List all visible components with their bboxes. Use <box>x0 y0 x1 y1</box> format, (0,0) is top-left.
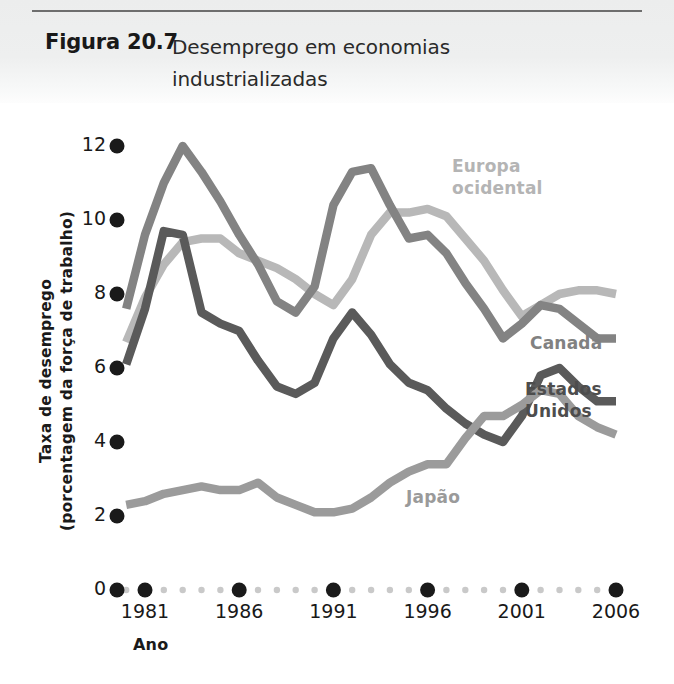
x-tick-dot-minor <box>481 587 487 593</box>
series-label-japao: Japão <box>406 486 460 508</box>
x-tick-dot-minor <box>349 587 355 593</box>
x-tick-dot-minor <box>462 587 468 593</box>
x-tick-dot-minor <box>537 587 543 593</box>
y-tick-label: 12 <box>72 133 106 155</box>
x-tick-dot-minor <box>293 587 299 593</box>
x-tick-dot-minor <box>556 587 562 593</box>
series-label-europa-ocidental: Europa ocidental <box>452 155 543 199</box>
series-label-canada: Canadá <box>530 332 602 354</box>
x-tick-label: 1986 <box>207 600 271 622</box>
x-tick-dot-major <box>232 583 247 598</box>
x-tick-dot-major <box>138 583 153 598</box>
x-tick-dot-minor <box>217 587 223 593</box>
x-tick-dot-minor <box>274 587 280 593</box>
x-tick-dot-minor <box>180 587 186 593</box>
y-tick-dot <box>110 509 125 524</box>
x-tick-dot-major <box>609 583 624 598</box>
x-tick-label: 2001 <box>490 600 554 622</box>
y-tick-dot <box>110 213 125 228</box>
x-tick-dot-minor <box>311 587 317 593</box>
y-axis-major-ticks <box>110 139 125 598</box>
y-tick-dot <box>110 435 125 450</box>
y-tick-label: 0 <box>72 577 106 599</box>
series-line-europa-ocidental <box>126 209 616 342</box>
y-tick-label: 8 <box>72 281 106 303</box>
x-tick-label: 1981 <box>113 600 177 622</box>
x-tick-dot-major <box>514 583 529 598</box>
y-tick-dot <box>110 287 125 302</box>
x-tick-dot-minor <box>255 587 261 593</box>
x-tick-dot-minor <box>500 587 506 593</box>
y-tick-label: 10 <box>72 207 106 229</box>
x-tick-dot-minor <box>443 587 449 593</box>
x-tick-dot-minor <box>161 587 167 593</box>
x-axis-major-ticks <box>138 583 624 598</box>
x-tick-dot-minor <box>594 587 600 593</box>
chart-series-lines <box>126 146 616 512</box>
x-tick-dot-minor <box>198 587 204 593</box>
x-tick-dot-minor <box>406 587 412 593</box>
series-label-estados-unidos: Estados Unidos <box>525 378 602 422</box>
x-tick-dot-minor <box>575 587 581 593</box>
x-tick-dot-major <box>420 583 435 598</box>
x-tick-label: 1996 <box>396 600 460 622</box>
y-tick-label: 2 <box>72 503 106 525</box>
x-tick-label: 1991 <box>301 600 365 622</box>
x-tick-dot-minor <box>368 587 374 593</box>
y-tick-label: 4 <box>72 429 106 451</box>
y-tick-label: 6 <box>72 355 106 377</box>
y-tick-dot <box>110 583 125 598</box>
x-tick-dot-minor <box>387 587 393 593</box>
y-tick-dot <box>110 139 125 154</box>
x-tick-label: 2006 <box>584 600 648 622</box>
x-tick-dot-major <box>326 583 341 598</box>
figure-container: Figura 20.7 Desemprego em economias indu… <box>0 0 674 684</box>
